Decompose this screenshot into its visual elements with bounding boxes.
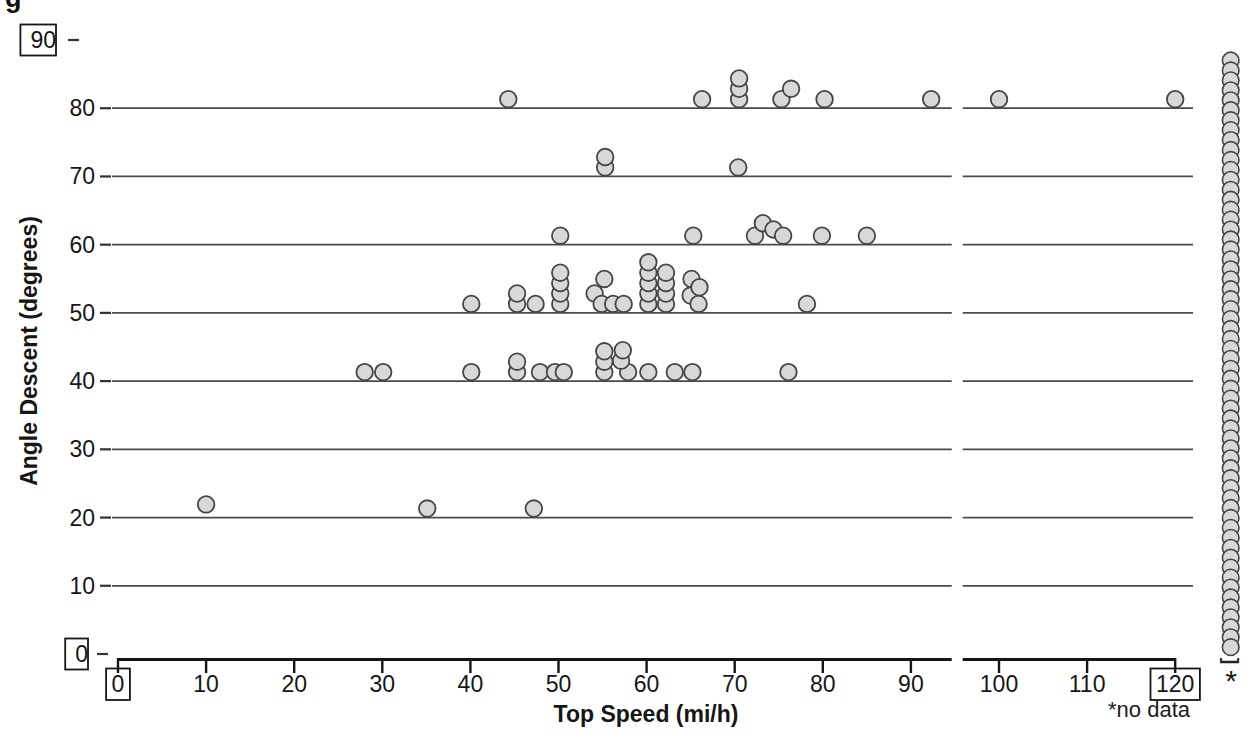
data-point-dot <box>526 500 543 517</box>
data-point-dot <box>666 364 683 381</box>
x-tick-label: 80 <box>810 671 836 697</box>
data-point-dot <box>527 296 544 313</box>
data-point-dot <box>509 285 526 302</box>
no-data-note: *no data <box>1108 697 1190 723</box>
x-tick-label: 0 <box>112 671 125 697</box>
x-tick-label: 40 <box>458 671 484 697</box>
data-point-dot <box>597 149 614 166</box>
data-point-dot <box>923 91 940 108</box>
no-data-asterisk-icon: * <box>1221 664 1241 698</box>
data-point-dot <box>596 271 613 288</box>
data-point-dot <box>731 70 748 87</box>
plot-canvas: 0102030405060708090100110120010203040506… <box>0 0 1255 753</box>
data-point-dot <box>859 227 876 244</box>
data-point-dot <box>691 279 708 296</box>
data-point-dot <box>555 364 572 381</box>
x-tick-label: 90 <box>898 671 924 697</box>
x-tick-label: 20 <box>281 671 307 697</box>
data-point-dot <box>780 364 797 381</box>
data-point-dot <box>816 91 833 108</box>
y-tick-label: 50 <box>69 300 95 326</box>
data-point-dot <box>552 264 569 281</box>
data-point-dot <box>375 364 392 381</box>
data-point-dot <box>640 254 657 271</box>
data-point-dot <box>694 91 711 108</box>
data-point-dot <box>814 227 831 244</box>
y-tick-label: 20 <box>69 505 95 531</box>
x-tick-label: 30 <box>370 671 396 697</box>
y-tick-label: 10 <box>69 573 95 599</box>
data-point-dot <box>730 159 747 176</box>
x-axis-title: Top Speed (mi/h) <box>554 701 739 728</box>
y-tick-label: 0 <box>75 641 88 667</box>
data-point-dot <box>500 91 517 108</box>
data-point-dot <box>685 227 702 244</box>
x-tick-label: 50 <box>546 671 572 697</box>
data-point-dot <box>799 296 816 313</box>
x-tick-label: 70 <box>722 671 748 697</box>
data-point-dot <box>419 500 436 517</box>
y-tick-label: 70 <box>69 163 95 189</box>
y-tick-label: 90 <box>30 27 56 53</box>
y-tick-label: 80 <box>69 95 95 121</box>
x-tick-label: 100 <box>980 671 1018 697</box>
x-tick-label: 110 <box>1069 671 1106 697</box>
data-point-dot <box>775 227 792 244</box>
x-tick-label: 60 <box>634 671 660 697</box>
x-tick-label: 10 <box>193 671 219 697</box>
y-tick-label: 40 <box>69 368 95 394</box>
data-point-dot <box>1167 91 1184 108</box>
data-point-dot <box>690 296 707 313</box>
data-point-dot <box>198 496 215 513</box>
y-axis-title: Angle Descent (degrees) <box>16 216 43 486</box>
data-point-dot <box>783 81 800 98</box>
data-point-dot <box>658 264 675 281</box>
data-point-dot <box>991 91 1008 108</box>
data-point-dot <box>684 364 701 381</box>
y-tick-label: 30 <box>69 436 95 462</box>
data-point-dot <box>463 296 480 313</box>
data-point-dot <box>640 364 657 381</box>
dot-plot-figure: g 01020304050607080901001101200102030405… <box>0 0 1255 753</box>
y-tick-label: 60 <box>69 232 95 258</box>
data-point-dot <box>509 353 526 370</box>
data-point-dot <box>356 364 373 381</box>
data-point-dot <box>463 364 480 381</box>
data-point-dot <box>552 227 569 244</box>
data-point-dot <box>615 296 632 313</box>
data-point-dot <box>615 342 632 359</box>
x-tick-label: 120 <box>1156 671 1194 697</box>
data-point-dot <box>596 343 613 360</box>
